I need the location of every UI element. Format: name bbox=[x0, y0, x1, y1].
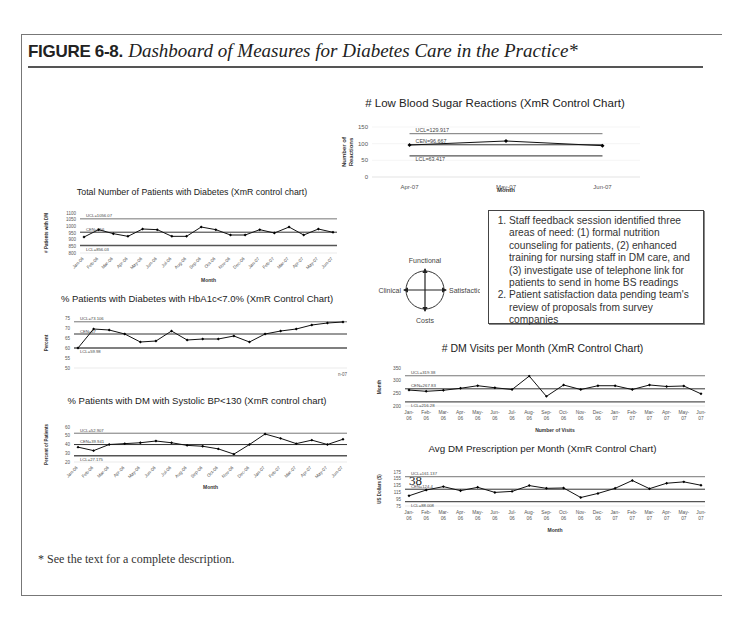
svg-text:06: 06 bbox=[509, 416, 515, 421]
svg-text:30: 30 bbox=[65, 451, 71, 456]
svg-text:Feb-06: Feb-06 bbox=[81, 465, 95, 479]
svg-text:06: 06 bbox=[492, 516, 498, 521]
svg-text:Nov-: Nov- bbox=[576, 510, 587, 515]
svg-text:1100: 1100 bbox=[66, 211, 76, 216]
chart-svg: Avg DM Prescription per Month (XmR Contr… bbox=[375, 440, 710, 535]
chart-svg: # Low Blood Sugar Reactions (XmR Control… bbox=[310, 95, 680, 195]
svg-text:100: 100 bbox=[358, 141, 369, 147]
svg-text:135: 135 bbox=[393, 483, 401, 488]
svg-text:60: 60 bbox=[65, 425, 71, 430]
chart-dm-visits: # DM Visits per Month (XmR Control Chart… bbox=[375, 340, 710, 435]
svg-text:06: 06 bbox=[544, 516, 550, 521]
svg-text:50: 50 bbox=[65, 366, 71, 371]
svg-text:Dec-: Dec- bbox=[593, 510, 604, 515]
figure-title: FIGURE 6-8. Dashboard of Measures for Di… bbox=[28, 40, 578, 62]
svg-text:Mar-06: Mar-06 bbox=[96, 465, 110, 479]
svg-text:07: 07 bbox=[664, 516, 670, 521]
svg-text:Jan-: Jan- bbox=[404, 510, 414, 515]
svg-text:300: 300 bbox=[393, 378, 401, 383]
stray-label: 38 bbox=[409, 473, 422, 489]
svg-text:UCL=73.106: UCL=73.106 bbox=[80, 316, 104, 321]
svg-text:06: 06 bbox=[441, 516, 447, 521]
svg-text:UCL=1056.07: UCL=1056.07 bbox=[86, 213, 113, 218]
svg-text:Month: Month bbox=[548, 527, 563, 533]
svg-text:Oct-: Oct- bbox=[559, 510, 568, 515]
svg-text:06: 06 bbox=[595, 416, 601, 421]
svg-text:Sep-06: Sep-06 bbox=[188, 256, 202, 270]
note-item: Patient satisfaction data pending team's… bbox=[509, 289, 697, 326]
svg-text:07: 07 bbox=[698, 416, 704, 421]
svg-text:Percent of Patients: Percent of Patients bbox=[44, 424, 49, 465]
svg-text:Apr-06: Apr-06 bbox=[116, 256, 129, 269]
svg-text:Mar-07: Mar-07 bbox=[276, 256, 290, 270]
svg-text:US Dollars ($): US Dollars ($) bbox=[377, 474, 382, 504]
svg-text:Jan-06: Jan-06 bbox=[65, 465, 79, 479]
svg-text:200: 200 bbox=[393, 404, 401, 409]
svg-text:06: 06 bbox=[595, 516, 601, 521]
svg-text:07: 07 bbox=[698, 516, 704, 521]
svg-text:Jun-: Jun- bbox=[490, 410, 500, 415]
svg-text:Jun-06: Jun-06 bbox=[143, 465, 157, 479]
svg-text:155: 155 bbox=[393, 476, 401, 481]
svg-text:Jan-06: Jan-06 bbox=[71, 256, 85, 270]
svg-text:Jan-: Jan- bbox=[610, 410, 620, 415]
svg-text:Number of: Number of bbox=[341, 136, 347, 167]
chart-svg: % Patients with DM with Systolic BP<130 … bbox=[42, 392, 352, 492]
svg-text:06: 06 bbox=[406, 416, 412, 421]
svg-text:07: 07 bbox=[681, 516, 687, 521]
svg-text:Apr-: Apr- bbox=[662, 510, 671, 515]
svg-text:May-06: May-06 bbox=[129, 256, 143, 270]
svg-text:Dec-06: Dec-06 bbox=[232, 256, 246, 270]
svg-text:Month: Month bbox=[377, 380, 382, 394]
svg-text:07: 07 bbox=[681, 416, 687, 421]
svg-text:n-07: n-07 bbox=[338, 372, 348, 377]
svg-text:07: 07 bbox=[647, 516, 653, 521]
svg-text:Apr-06: Apr-06 bbox=[112, 465, 125, 478]
svg-text:07: 07 bbox=[664, 416, 670, 421]
svg-text:20: 20 bbox=[65, 460, 71, 465]
svg-text:Feb-07: Feb-07 bbox=[268, 465, 282, 479]
svg-text:Sep-06: Sep-06 bbox=[190, 465, 204, 479]
svg-text:06: 06 bbox=[544, 416, 550, 421]
svg-text:40: 40 bbox=[65, 442, 71, 447]
svg-text:Feb-: Feb- bbox=[627, 510, 637, 515]
svg-text:950: 950 bbox=[68, 231, 76, 236]
svg-text:Jan-07: Jan-07 bbox=[252, 465, 266, 479]
chart-svg: % Patients with Diabetes with HbA1c<7.0%… bbox=[42, 292, 352, 382]
compass-functional-label: Functional bbox=[409, 257, 442, 264]
svg-text:May-07: May-07 bbox=[314, 465, 328, 479]
chart-low-blood-sugar: # Low Blood Sugar Reactions (XmR Control… bbox=[310, 95, 680, 195]
svg-text:800: 800 bbox=[68, 251, 76, 256]
svg-text:Mar-: Mar- bbox=[645, 510, 655, 515]
svg-text:Mar-: Mar- bbox=[645, 410, 655, 415]
svg-text:06: 06 bbox=[561, 516, 567, 521]
svg-text:LCL=27.175: LCL=27.175 bbox=[80, 457, 104, 462]
svg-text:1000: 1000 bbox=[66, 224, 77, 229]
svg-text:LCL=216.28: LCL=216.28 bbox=[411, 403, 435, 408]
svg-text:Feb-07: Feb-07 bbox=[261, 256, 275, 270]
svg-text:06: 06 bbox=[475, 416, 481, 421]
svg-text:06: 06 bbox=[458, 516, 464, 521]
balanced-compass-diagram: Functional Clinical Satisfaction Costs bbox=[370, 250, 480, 330]
svg-text:UCL=52.907: UCL=52.907 bbox=[80, 428, 104, 433]
svg-text:# Patients with DM: # Patients with DM bbox=[44, 213, 49, 253]
svg-text:70: 70 bbox=[65, 326, 71, 331]
svg-text:Jan-07: Jan-07 bbox=[247, 256, 261, 270]
svg-text:Jan-: Jan- bbox=[404, 410, 414, 415]
note-item: Staff feedback session identified three … bbox=[509, 215, 697, 289]
chart-svg: Total Number of Patients with Diabetes (… bbox=[42, 185, 342, 285]
svg-text:UCL=319.38: UCL=319.38 bbox=[411, 370, 436, 375]
figure-caption: Dashboard of Measures for Diabetes Care … bbox=[128, 40, 578, 61]
svg-text:Jun-07: Jun-07 bbox=[320, 256, 334, 270]
svg-text:06: 06 bbox=[492, 416, 498, 421]
svg-text:50: 50 bbox=[65, 433, 71, 438]
svg-text:115: 115 bbox=[394, 490, 402, 495]
svg-text:Feb-06: Feb-06 bbox=[86, 256, 100, 270]
svg-text:Sep-: Sep- bbox=[541, 410, 552, 415]
svg-text:06: 06 bbox=[527, 416, 533, 421]
chart-title: % Patients with Diabetes with HbA1c<7.0%… bbox=[61, 293, 333, 304]
svg-text:May-: May- bbox=[678, 510, 689, 515]
svg-text:75: 75 bbox=[65, 316, 71, 321]
svg-text:06: 06 bbox=[561, 416, 567, 421]
svg-text:Aug-06: Aug-06 bbox=[173, 256, 187, 270]
